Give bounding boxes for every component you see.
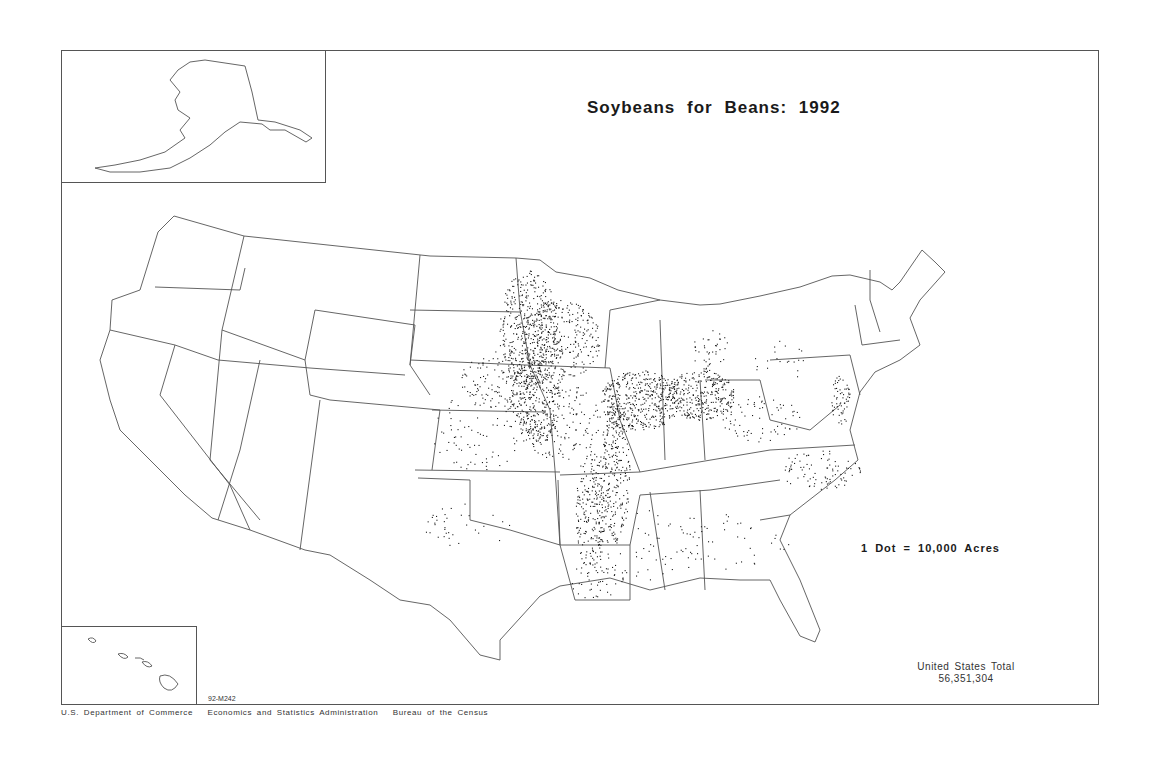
soybean-acreage-dots bbox=[426, 271, 861, 599]
us-map bbox=[0, 0, 1161, 766]
state-outlines bbox=[88, 60, 945, 690]
alaska-outline bbox=[95, 60, 312, 172]
us-outline bbox=[100, 216, 945, 660]
state-borders bbox=[110, 236, 900, 600]
map-title: Soybeans for Beans: 1992 bbox=[587, 98, 841, 118]
us-total: United States Total 56,351,304 bbox=[896, 661, 1036, 685]
map-code: 92-M242 bbox=[208, 695, 236, 702]
hawaii-outline bbox=[88, 638, 178, 690]
us-total-label: United States Total bbox=[896, 661, 1036, 673]
us-total-value: 56,351,304 bbox=[896, 673, 1036, 685]
source-credit: U.S. Department of Commerce Economics an… bbox=[61, 708, 488, 717]
dot-legend: 1 Dot = 10,000 Acres bbox=[861, 542, 1000, 554]
